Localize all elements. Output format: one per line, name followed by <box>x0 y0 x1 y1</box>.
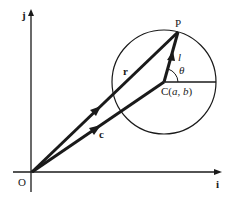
x-axis-label: i <box>216 178 219 190</box>
angle-arc <box>168 69 178 82</box>
vector-c <box>32 82 164 172</box>
vector-r <box>32 32 178 172</box>
y-axis-label: j <box>21 9 26 21</box>
point-p-label: P <box>175 17 181 29</box>
y-axis <box>28 9 34 192</box>
vector-r-label: r <box>123 65 128 77</box>
origin-label: O <box>18 176 26 188</box>
point-c-label: C(a, b) <box>161 85 193 98</box>
diagram-canvas: j i O P C(a, b) r c l θ <box>0 0 234 205</box>
x-axis-arrow-icon <box>214 169 222 175</box>
vector-c-label: c <box>99 128 104 140</box>
angle-theta-label: θ <box>179 64 185 76</box>
x-axis <box>13 169 222 175</box>
vector-l-label: l <box>178 51 181 63</box>
y-axis-arrow-icon <box>28 9 34 16</box>
